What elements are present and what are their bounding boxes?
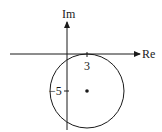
real-tick-label: 3 (84, 59, 90, 73)
imaginary-axis-label: Im (62, 7, 76, 21)
complex-plane-diagram: Re Im 3 −5 (0, 0, 162, 132)
imag-tick-label: −5 (49, 84, 62, 98)
center-point (85, 89, 89, 93)
real-axis-label: Re (142, 47, 155, 61)
